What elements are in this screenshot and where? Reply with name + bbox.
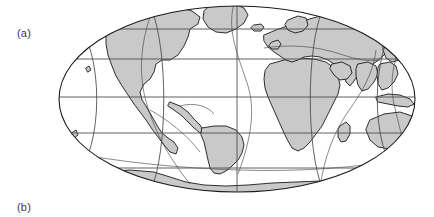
land-new-zealand bbox=[408, 150, 416, 163]
panel-label-a: (a) bbox=[17, 27, 31, 39]
figure-container: (a) (b) bbox=[0, 0, 434, 217]
world-map-svg bbox=[58, 2, 416, 196]
land-japan bbox=[406, 40, 416, 54]
land-east-asia bbox=[383, 32, 416, 62]
world-map bbox=[58, 2, 416, 196]
land-alaska bbox=[86, 16, 114, 33]
panel-label-b: (b) bbox=[17, 201, 31, 213]
